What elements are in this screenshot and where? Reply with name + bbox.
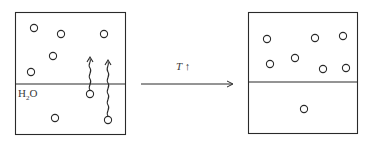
left-container bbox=[16, 13, 126, 135]
right-liquid-molecules bbox=[300, 105, 307, 112]
water-label-o: O bbox=[29, 87, 37, 99]
right-container bbox=[249, 13, 358, 134]
water-label-h: H bbox=[18, 87, 26, 99]
escape-path-2 bbox=[107, 62, 109, 116]
right-box-outline bbox=[249, 13, 358, 134]
heating-arrow bbox=[141, 81, 233, 87]
left-liquid-molecules bbox=[51, 90, 111, 123]
water-label: H2O bbox=[18, 87, 37, 102]
up-arrow-icon: ↑ bbox=[185, 60, 191, 72]
left-gas-molecules bbox=[27, 24, 107, 75]
escape-path-1 bbox=[89, 59, 91, 90]
temperature-symbol: T bbox=[176, 60, 182, 72]
temperature-increase-label: T ↑ bbox=[176, 60, 190, 72]
right-gas-molecules bbox=[263, 32, 349, 72]
